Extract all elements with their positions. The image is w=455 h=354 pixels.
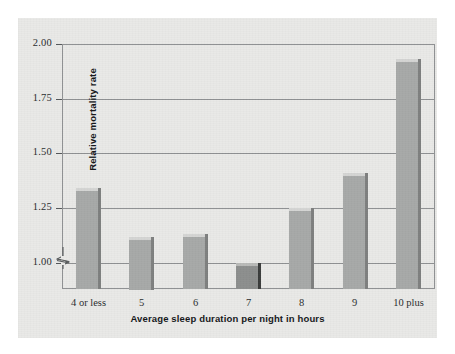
chart-figure: 1.001.251.501.752.004 or less5678910 plu… xyxy=(18,18,437,338)
bar xyxy=(76,188,101,289)
bar-side-face xyxy=(418,59,421,289)
bar-side-face xyxy=(365,173,368,289)
bar xyxy=(396,59,421,289)
y-axis-tick xyxy=(56,99,62,100)
x-axis-tick-label: 7 xyxy=(222,297,275,308)
gridline xyxy=(62,99,435,100)
y-axis-tick-label: 2.00 xyxy=(14,37,52,48)
bar-side-face xyxy=(98,188,101,289)
x-axis-tick-label: 5 xyxy=(115,297,168,308)
bar-side-face xyxy=(258,263,261,289)
x-axis-tick-label: 9 xyxy=(328,297,381,308)
plot-area xyxy=(62,44,435,289)
y-axis-tick xyxy=(56,208,62,209)
y-axis-tick-label: 1.50 xyxy=(14,146,52,157)
y-axis-tick-label: 1.75 xyxy=(14,92,52,103)
gridline xyxy=(62,208,435,209)
x-axis-tick-label: 6 xyxy=(169,297,222,308)
bar xyxy=(343,173,368,289)
y-axis-tick-label: 1.25 xyxy=(14,201,52,212)
y-axis-tick xyxy=(56,153,62,154)
bar xyxy=(289,208,314,289)
bar-side-face xyxy=(205,234,208,289)
bar xyxy=(236,263,261,289)
y-axis-tick-label: 1.00 xyxy=(14,256,52,267)
bar xyxy=(183,234,208,289)
y-axis-tick xyxy=(56,44,62,45)
gridline xyxy=(62,153,435,154)
y-axis-title: Relative mortality rate xyxy=(87,40,98,200)
bar-side-face xyxy=(311,208,314,289)
bar xyxy=(129,237,154,290)
x-axis-tick-label: 10 plus xyxy=(382,297,435,308)
x-axis-tick-label: 8 xyxy=(275,297,328,308)
x-axis-title: Average sleep duration per night in hour… xyxy=(18,313,437,324)
x-axis-tick-label: 4 or less xyxy=(62,297,115,308)
gridline xyxy=(62,44,435,45)
bar-side-face xyxy=(151,237,154,290)
axis-break-icon xyxy=(56,247,70,269)
